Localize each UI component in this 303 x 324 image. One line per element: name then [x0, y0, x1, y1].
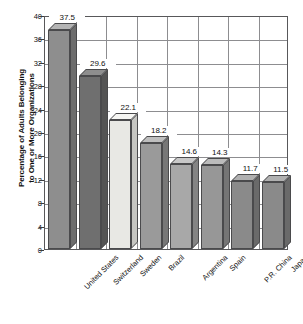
- x-category-label: Spain: [227, 253, 247, 273]
- bar-side-face: [70, 23, 77, 249]
- x-category-label: Argentina: [201, 253, 230, 282]
- bar-value-label: 29.6: [80, 59, 116, 68]
- bar-front-face: [140, 143, 162, 249]
- bar: [201, 158, 223, 249]
- plot-area: 37.529.622.118.214.614.311.711.5: [44, 16, 288, 250]
- bar-front-face: [109, 120, 131, 249]
- bar-front-face: [262, 182, 284, 249]
- bar-side-face: [101, 69, 108, 249]
- bar: [48, 23, 70, 249]
- bar-side-face: [253, 174, 260, 249]
- bar-value-label: 22.1: [110, 103, 146, 112]
- bar: [140, 136, 162, 249]
- bar: [231, 174, 253, 249]
- bar-side-face: [131, 113, 138, 249]
- y-tick-mark: [39, 250, 44, 251]
- bar-front-face: [48, 30, 70, 249]
- bar: [109, 113, 131, 249]
- bar-value-label: 14.3: [202, 148, 238, 157]
- x-category-label: United States: [82, 253, 120, 291]
- bar-side-face: [192, 157, 199, 249]
- bar-front-face: [231, 181, 253, 249]
- bar-side-face: [223, 158, 230, 249]
- bar-value-label: 37.5: [49, 13, 85, 22]
- bar-front-face: [79, 76, 101, 249]
- bar-chart: Percentage of Adults Belonging to One or…: [0, 0, 303, 324]
- bar: [170, 157, 192, 249]
- x-category-label: Brazil: [166, 253, 186, 273]
- bar-front-face: [170, 164, 192, 249]
- bar-front-face: [201, 165, 223, 249]
- bar: [79, 69, 101, 249]
- bar-value-label: 11.5: [263, 165, 299, 174]
- bar-side-face: [284, 175, 291, 249]
- bar-value-label: 18.2: [141, 126, 177, 135]
- bar-side-face: [162, 136, 169, 249]
- bar: [262, 175, 284, 249]
- gridline-horizontal: [45, 40, 287, 41]
